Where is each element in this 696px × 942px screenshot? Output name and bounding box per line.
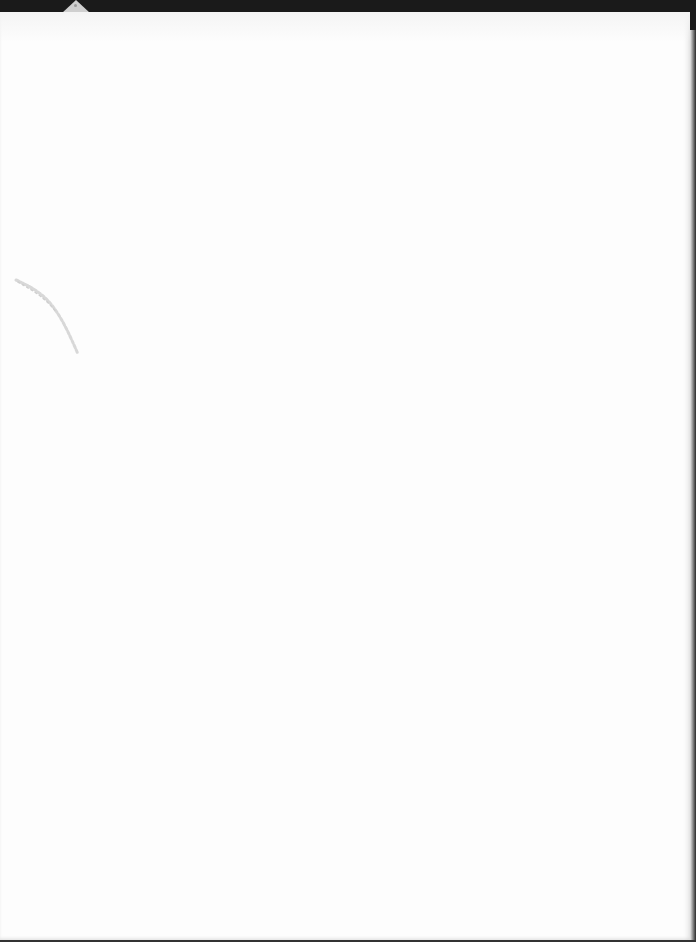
blank-page: [0, 12, 690, 940]
page-edge-shadow: [690, 30, 696, 942]
smudge-mark: [10, 274, 90, 364]
tab-dot: [74, 4, 77, 7]
